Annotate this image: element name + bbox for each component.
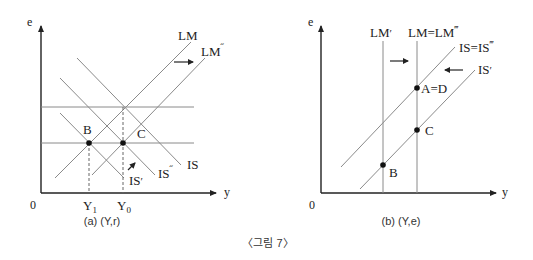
- panel-a-origin: 0: [30, 198, 36, 212]
- is-prime-curve: [60, 113, 124, 178]
- panel-a: e y 0 B C LM LM˝ IS IS˝ IS′ Y1: [27, 15, 230, 227]
- point-b-b-marker: [380, 162, 386, 168]
- figure-caption: 〈그림 7〉: [242, 237, 293, 249]
- point-c-b-label: C: [425, 123, 434, 138]
- point-c-b-marker: [414, 127, 420, 133]
- panel-a-subtitle: (a) (Y,r): [84, 215, 120, 227]
- tick-y0: Y0: [117, 198, 131, 215]
- panel-a-x-axis-label: y: [224, 185, 230, 199]
- is-prime-label: IS′: [129, 173, 143, 188]
- tick-y1: Y1: [83, 198, 97, 215]
- is-prime-label-b: IS′: [478, 62, 492, 77]
- point-c-marker: [120, 140, 126, 146]
- lm-equal-label: LM=LM‴: [408, 24, 459, 40]
- point-b-label: B: [83, 122, 92, 137]
- panel-a-y-axis-label: e: [27, 15, 32, 29]
- point-b-marker: [86, 140, 92, 146]
- point-b-b-label: B: [389, 165, 398, 180]
- is-label: IS: [187, 157, 199, 172]
- panel-b-y-axis-label: e: [308, 15, 313, 29]
- panel-b-subtitle: (b) (Y,e): [382, 215, 421, 227]
- point-ad-marker: [414, 85, 420, 91]
- figure-canvas: e y 0 B C LM LM˝ IS IS˝ IS′ Y1: [0, 0, 533, 260]
- lm-label: LM: [178, 28, 198, 43]
- lm-prime-label: LM′: [370, 25, 392, 40]
- point-c-label: C: [137, 126, 146, 141]
- is-double-prime-label: IS˝: [158, 164, 174, 181]
- point-ad-label: A=D: [421, 81, 447, 96]
- panel-b-origin: 0: [309, 198, 315, 212]
- lm-double-prime-label: LM˝: [201, 42, 225, 59]
- panel-b: e y 0 A=D C B LM′ LM=LM‴ IS=IS‴ IS′ (b) …: [308, 15, 508, 227]
- is-shift-arrow: [128, 163, 135, 170]
- panel-b-x-axis-label: y: [502, 185, 508, 199]
- is-equal-label: IS=IS‴: [459, 39, 494, 55]
